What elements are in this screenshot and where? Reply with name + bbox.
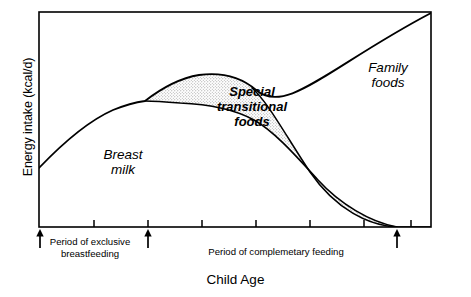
axis-note-complementary-feeding: Period of complemetary feeding (176, 246, 376, 258)
annotation-family-foods: Family foods (348, 60, 428, 91)
y-axis-label: Energy intake (kcal/d) (21, 17, 35, 217)
annotation-special-transitional-foods: Special transitional foods (197, 85, 307, 129)
x-axis-label: Child Age (0, 272, 471, 287)
axis-note-exclusive-breastfeeding: Period of exclusive breastfeeding (22, 236, 158, 259)
arrow-end-complementary-icon (393, 229, 400, 248)
annotation-breast-milk: Breast milk (78, 147, 168, 178)
chart-figure: Energy intake (kcal/d) Breast milk Speci… (0, 0, 471, 297)
